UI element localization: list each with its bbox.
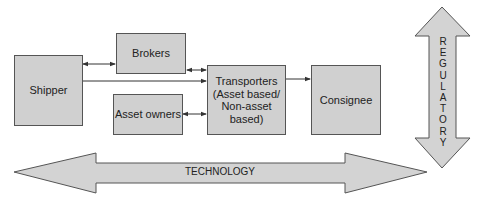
node-shipper-label: Shipper [30,84,68,97]
node-transporters: Transporters (Asset based/ Non-asset bas… [207,65,286,135]
node-shipper: Shipper [14,55,83,126]
node-brokers-label: Brokers [132,47,170,60]
node-consignee-label: Consignee [320,94,373,107]
node-transporters-label: Transporters (Asset based/ Non-asset bas… [213,75,280,125]
node-asset-owners: Asset owners [113,94,183,135]
regulatory-label: R E G U L A T O R Y [432,36,454,148]
node-consignee: Consignee [311,65,381,135]
node-brokers: Brokers [116,33,186,74]
diagram-canvas: Shipper Brokers Asset owners Transporter… [0,0,477,200]
node-asset-owners-label: Asset owners [115,108,181,121]
technology-label: TECHNOLOGY [100,165,340,179]
